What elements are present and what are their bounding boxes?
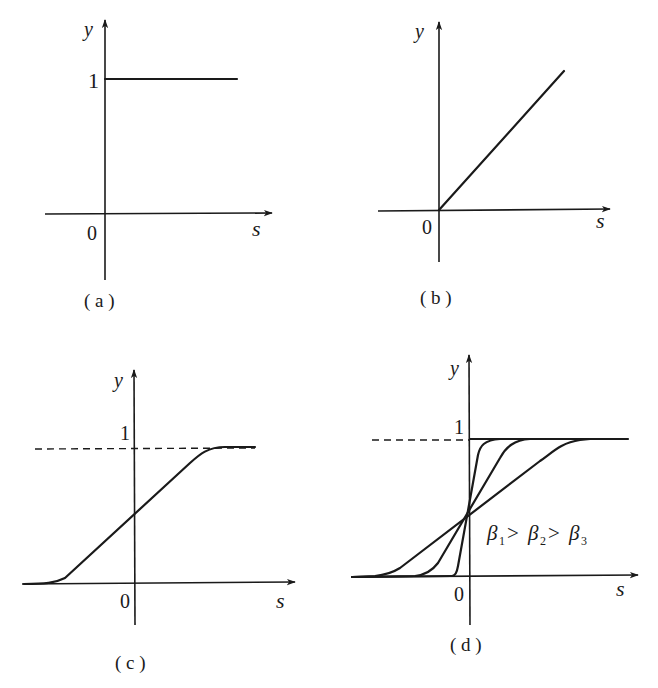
y-axis-label: y [82,18,93,41]
y-tick-1: 1 [88,68,99,93]
sigmoid-curve [24,447,255,584]
beta-1: β [486,521,498,545]
y-axis [469,355,470,625]
greater-than-1: > [507,521,519,545]
panel-caption: ( c ) [115,652,146,674]
x-axis [22,582,295,584]
panel-b: y 0 s ( b ) [378,20,610,309]
figure-canvas: y 1 0 s ( a ) y 0 s ( b ) y 1 0 s ( c ) [0,0,658,688]
y-tick-1: 1 [454,416,464,438]
y-axis-label: y [413,20,424,43]
beta-2-subscript: 2 [540,534,546,548]
panel-caption: ( a ) [84,290,115,312]
linear-function-line [439,71,564,210]
sigmoid-curve-beta1 [352,439,520,577]
x-axis-label: s [596,208,605,233]
x-axis-label: s [276,588,285,613]
x-axis-label: s [252,216,261,241]
panel-d: y 1 0 s β 1 > β 2 > β 3 ( d ) [352,355,638,656]
panel-caption: ( d ) [450,634,482,656]
y-tick-1: 1 [120,422,130,444]
origin-label: 0 [120,590,130,612]
x-axis [45,213,272,214]
origin-label: 0 [422,216,432,238]
greater-than-2: > [548,521,560,545]
origin-label: 0 [454,583,464,605]
panel-c: y 1 0 s ( c ) [22,369,295,674]
beta-2: β [527,521,539,545]
x-axis-label: s [616,576,625,601]
panel-a: y 1 0 s ( a ) [45,18,272,312]
x-axis [378,209,610,211]
y-axis-label: y [112,369,123,392]
beta-3-subscript: 3 [581,534,587,548]
beta-1-subscript: 1 [499,534,505,548]
y-axis-label: y [448,357,459,380]
sigmoid-curve-beta2 [352,439,545,577]
beta-ordering-annotation: β 1 > β 2 > β 3 [486,521,587,548]
beta-3: β [568,521,580,545]
panel-caption: ( b ) [420,287,452,309]
y-axis [134,370,135,625]
origin-label: 0 [87,222,97,244]
